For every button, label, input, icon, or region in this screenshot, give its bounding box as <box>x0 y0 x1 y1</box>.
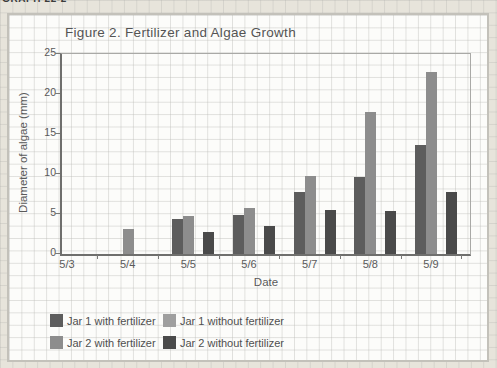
x-tick-label-5-6: 5/6 <box>224 258 274 270</box>
legend-label: Jar 1 without fertilizer <box>180 315 284 327</box>
legend-swatch-jar-2-with-fertilizer <box>50 336 63 349</box>
x-tick-mark-6 <box>401 255 402 259</box>
header-label: GRAPH 22-2 <box>2 0 67 4</box>
legend-label: Jar 2 with fertilizer <box>67 337 156 349</box>
x-tick-label-5-9: 5/9 <box>406 258 456 270</box>
bar-jar-2-with-fertilizer-5-8 <box>365 112 376 254</box>
legend-item-jar-2-with-fertilizer: Jar 2 with fertilizer <box>50 336 163 349</box>
legend-label: Jar 2 without fertilizer <box>180 337 284 349</box>
y-tick-label-25: 25 <box>34 47 56 58</box>
y-tick-label-5: 5 <box>34 207 56 218</box>
chart-title: Figure 2. Fertilizer and Algae Growth <box>65 25 296 40</box>
bar-jar-1-with-fertilizer-5-9 <box>415 145 426 254</box>
y-tick-mark-25 <box>55 53 60 54</box>
x-tick-label-5-7: 5/7 <box>285 258 335 270</box>
legend-swatch-jar-1-with-fertilizer <box>50 314 63 327</box>
y-tick-mark-10 <box>55 173 60 174</box>
bar-jar-1-with-fertilizer-5-7 <box>294 192 305 254</box>
legend-row-2: Jar 2 with fertilizerJar 2 without ferti… <box>50 336 284 349</box>
legend-swatch-jar-2-without-fertilizer <box>163 336 176 349</box>
legend-swatch-jar-1-without-fertilizer <box>163 314 176 327</box>
y-tick-label-10: 10 <box>34 167 56 178</box>
y-tick-mark-15 <box>55 133 60 134</box>
legend-item-jar-2-without-fertilizer: Jar 2 without fertilizer <box>163 336 284 349</box>
legend-item-jar-1-without-fertilizer: Jar 1 without fertilizer <box>163 314 284 327</box>
legend: Jar 1 with fertilizerJar 1 without ferti… <box>50 314 284 358</box>
bar-jar-2-with-fertilizer-5-7 <box>305 176 316 254</box>
bar-jar-2-without-fertilizer-5-9 <box>446 192 457 254</box>
bar-jar-1-with-fertilizer-5-5 <box>172 219 183 254</box>
bar-jar-1-with-fertilizer-5-8 <box>354 177 365 254</box>
legend-item-jar-1-with-fertilizer: Jar 1 with fertilizer <box>50 314 163 327</box>
y-tick-mark-5 <box>55 213 60 214</box>
x-tick-label-5-3: 5/3 <box>42 258 92 270</box>
bar-jar-2-without-fertilizer-5-6 <box>264 226 275 254</box>
x-tick-mark-1 <box>97 255 98 259</box>
y-tick-mark-20 <box>55 93 60 94</box>
y-tick-label-0: 0 <box>34 247 56 258</box>
y-axis-title: Diameter of algae (mm) <box>17 53 32 253</box>
bar-jar-2-without-fertilizer-5-5 <box>203 232 214 254</box>
bar-jar-2-without-fertilizer-5-7 <box>325 210 336 254</box>
y-tick-label-20: 20 <box>34 87 56 98</box>
bar-jar-1-with-fertilizer-5-6 <box>233 215 244 254</box>
x-tick-label-5-4: 5/4 <box>103 258 153 270</box>
legend-row-1: Jar 1 with fertilizerJar 1 without ferti… <box>50 314 284 327</box>
x-tick-mark-3 <box>219 255 220 259</box>
y-tick-label-15: 15 <box>34 127 56 138</box>
x-axis-title: Date <box>62 276 470 288</box>
bar-jar-2-with-fertilizer-5-5 <box>183 216 194 254</box>
x-tick-mark-2 <box>158 255 159 259</box>
chart-panel: Figure 2. Fertilizer and Algae Growth Di… <box>7 13 489 362</box>
bar-jar-2-without-fertilizer-5-8 <box>385 211 396 254</box>
x-tick-label-5-8: 5/8 <box>345 258 395 270</box>
x-tick-label-5-5: 5/5 <box>163 258 213 270</box>
bar-jar-2-with-fertilizer-5-4 <box>123 229 134 254</box>
x-tick-mark-4 <box>279 255 280 259</box>
plot-area <box>60 53 471 256</box>
legend-label: Jar 1 with fertilizer <box>67 315 156 327</box>
bar-jar-2-with-fertilizer-5-6 <box>244 208 255 254</box>
bar-jar-2-with-fertilizer-5-9 <box>426 72 437 254</box>
y-tick-mark-0 <box>55 253 60 254</box>
page-background: GRAPH 22-2 Figure 2. Fertilizer and Alga… <box>0 0 497 368</box>
x-tick-mark-7 <box>461 255 462 259</box>
x-tick-mark-5 <box>340 255 341 259</box>
